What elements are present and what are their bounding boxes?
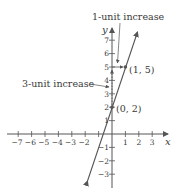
svg-text:−3: −3 xyxy=(98,170,109,179)
point-0-2 xyxy=(110,105,114,109)
svg-text:2: 2 xyxy=(104,103,109,112)
svg-text:3: 3 xyxy=(150,138,155,147)
point-label-0-2: (0, 2) xyxy=(116,103,142,114)
y-tick-labels: −3 −2 −1 1 2 3 4 5 6 7 xyxy=(98,36,109,179)
x-axis-label: x xyxy=(165,136,171,147)
svg-text:−4: −4 xyxy=(52,138,63,147)
svg-text:7: 7 xyxy=(104,36,109,45)
svg-text:−2: −2 xyxy=(98,157,109,166)
svg-text:−3: −3 xyxy=(65,138,76,147)
svg-text:4: 4 xyxy=(104,76,109,85)
run-leader-line xyxy=(118,23,121,63)
svg-text:−5: −5 xyxy=(38,138,49,147)
svg-text:6: 6 xyxy=(104,49,109,58)
x-tick-labels: −7 −6 −5 −4 −3 −2 1 2 3 xyxy=(11,138,154,147)
y-axis-label: y xyxy=(101,24,108,35)
point-1-5 xyxy=(124,65,128,69)
rise-annotation: 3-unit increase xyxy=(22,78,95,89)
run-annotation: 1-unit increase xyxy=(92,11,165,22)
svg-text:3: 3 xyxy=(104,90,109,99)
point-label-1-5: (1, 5) xyxy=(129,64,155,75)
svg-text:−7: −7 xyxy=(11,138,22,147)
slope-chart: −7 −6 −5 −4 −3 −2 1 2 3 −3 −2 −1 1 2 3 4… xyxy=(0,0,177,191)
svg-text:1: 1 xyxy=(123,138,128,147)
svg-text:5: 5 xyxy=(104,63,109,72)
svg-text:−6: −6 xyxy=(25,138,36,147)
svg-text:−2: −2 xyxy=(78,138,89,147)
svg-text:2: 2 xyxy=(136,138,141,147)
